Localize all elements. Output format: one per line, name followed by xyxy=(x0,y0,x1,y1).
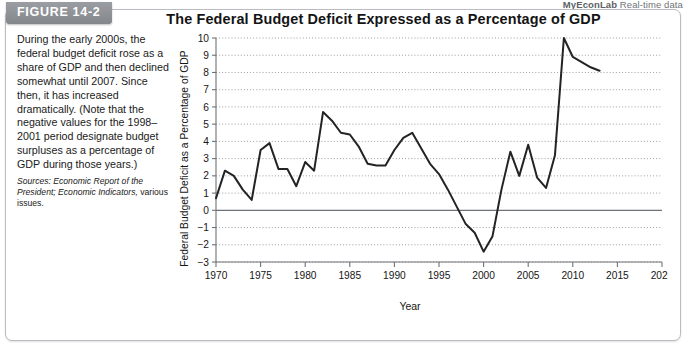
y-tick-label: 2 xyxy=(203,170,209,181)
x-tick-label: 1980 xyxy=(294,270,317,281)
chart-plot-area: Federal Budget Deficit as a Percentage o… xyxy=(176,32,668,324)
caption-sources: Sources: Economic Report of the Presiden… xyxy=(17,176,169,210)
chart-svg: −3−2−10123456789101970197519801985199019… xyxy=(190,32,668,300)
figure-caption: During the early 2000s, the federal budg… xyxy=(17,33,169,210)
x-tick-label: 1995 xyxy=(428,270,451,281)
y-axis-title-text: Federal Budget Deficit as a Percentage o… xyxy=(179,50,190,266)
x-axis-title: Year xyxy=(190,300,630,312)
y-tick-label: 6 xyxy=(203,102,209,113)
x-tick-label: 1975 xyxy=(249,270,272,281)
figure-number-banner: FIGURE 14-2 xyxy=(6,2,112,24)
x-tick-label: 1970 xyxy=(205,270,228,281)
y-tick-label: −2 xyxy=(197,239,209,250)
x-tick-label: 2005 xyxy=(517,270,540,281)
x-tick-label: 1990 xyxy=(383,270,406,281)
y-tick-label: 4 xyxy=(203,136,209,147)
x-tick-label: 2020 xyxy=(651,270,668,281)
y-tick-label: 9 xyxy=(203,50,209,61)
data-series-line xyxy=(216,38,600,252)
y-tick-label: 7 xyxy=(203,84,209,95)
caption-body: During the early 2000s, the federal budg… xyxy=(17,33,169,172)
x-tick-label: 1985 xyxy=(338,270,361,281)
y-tick-label: −1 xyxy=(197,222,209,233)
y-tick-label: 3 xyxy=(203,153,209,164)
figure-page: MyEconLab Real-time data FIGURE 14-2 The… xyxy=(0,0,687,359)
y-tick-label: 1 xyxy=(203,188,209,199)
y-tick-label: 5 xyxy=(203,119,209,130)
figure-number-label: FIGURE 14-2 xyxy=(17,5,100,19)
y-tick-label: −3 xyxy=(197,257,209,268)
y-tick-label: 0 xyxy=(203,205,209,216)
x-tick-label: 2015 xyxy=(606,270,629,281)
sources-prefix: Sources: xyxy=(17,176,53,186)
x-tick-label: 2000 xyxy=(472,270,495,281)
y-tick-label: 8 xyxy=(203,67,209,78)
y-tick-label: 10 xyxy=(198,33,210,44)
x-tick-label: 2010 xyxy=(561,270,584,281)
